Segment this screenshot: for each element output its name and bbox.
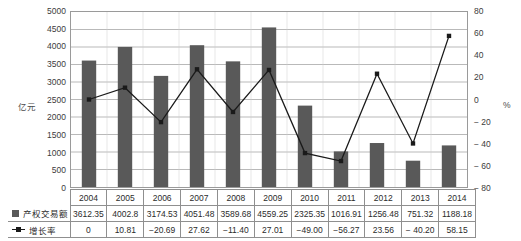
table-cell-value: 27.62 xyxy=(181,222,218,238)
axis-tick-label: 20 xyxy=(474,73,483,82)
axis-tick-label: 2000 xyxy=(47,113,66,122)
table-header-year: 2008 xyxy=(217,190,254,206)
axis-tick-label: 5000 xyxy=(47,7,66,16)
table-header-year: 2014 xyxy=(439,190,476,206)
table-header-year: 2006 xyxy=(144,190,181,206)
axis-tick-label: − 80 xyxy=(474,184,491,193)
table-row-header: 2004200520062007200820092010201120122013… xyxy=(8,190,476,206)
table-cell-value: 4051.48 xyxy=(181,206,218,222)
table-cell-value: 751.32 xyxy=(402,206,439,222)
legend-label: 增长率 xyxy=(29,224,56,236)
data-table: 2004200520062007200820092010201120122013… xyxy=(8,189,476,238)
axis-tick-label: 60 xyxy=(474,29,483,38)
table-cell-value: 3612.35 xyxy=(70,206,107,222)
axis-tick-label: 0 xyxy=(474,96,479,105)
plot-area xyxy=(70,11,468,188)
table-cell-value: 0 xyxy=(70,222,107,238)
table-header-year: 2004 xyxy=(70,190,107,206)
combo-chart: 亿元 % 50004500400035003000250020001500100… xyxy=(0,0,521,241)
table-row: 产权交易额3612.354002.83174.534051.483589.684… xyxy=(8,206,476,222)
table-header-year: 2011 xyxy=(328,190,365,206)
table-cell-value: −56.27 xyxy=(328,222,365,238)
data-table-body: 2004200520062007200820092010201120122013… xyxy=(8,190,476,238)
table-cell-value: −49.00 xyxy=(291,222,328,238)
table-header-year: 2013 xyxy=(402,190,439,206)
axis-tick-label: 3500 xyxy=(47,60,66,69)
table-cell-value: 1188.18 xyxy=(439,206,476,222)
legend-item[interactable]: 产权交易额 xyxy=(8,206,70,222)
axis-tick-label: − 40 xyxy=(474,140,491,149)
table-row: 增长率010.81−20.6927.62−11.4027.01−49.00−56… xyxy=(8,222,476,238)
legend-item[interactable]: 增长率 xyxy=(8,222,70,238)
table-corner-cell xyxy=(8,190,70,206)
table-header-year: 2009 xyxy=(254,190,291,206)
table-cell-value: 27.01 xyxy=(254,222,291,238)
table-cell-value: 58.15 xyxy=(439,222,476,238)
plot-svg xyxy=(71,12,467,187)
table-header-year: 2005 xyxy=(107,190,144,206)
axis-tick-label: 1000 xyxy=(47,149,66,158)
table-cell-value: 3174.53 xyxy=(144,206,181,222)
table-cell-value: 1016.91 xyxy=(328,206,365,222)
legend-line-marker-icon xyxy=(12,226,25,233)
axis-tick-label: 1500 xyxy=(47,131,66,140)
y-axis-right-ticks: 806040200− 20− 40− 60− 80 xyxy=(474,0,504,190)
axis-tick-label: 500 xyxy=(52,166,66,175)
axis-tick-label: − 60 xyxy=(474,162,491,171)
table-header-year: 2007 xyxy=(181,190,218,206)
table-cell-value: 23.56 xyxy=(365,222,402,238)
legend-label: 产权交易额 xyxy=(23,207,68,219)
axis-tick-label: 4000 xyxy=(47,42,66,51)
axis-tick-label: 80 xyxy=(474,7,483,16)
y-axis-left-ticks: 5000450040003500300025002000150010005000 xyxy=(34,0,66,190)
axis-tick-label: 4500 xyxy=(47,25,66,34)
table-cell-value: 4002.8 xyxy=(107,206,144,222)
axis-tick-label: 40 xyxy=(474,51,483,60)
table-cell-value: 10.81 xyxy=(107,222,144,238)
table-cell-value: − 40.20 xyxy=(402,222,439,238)
table-cell-value: 3589.68 xyxy=(217,206,254,222)
legend-bar-swatch-icon xyxy=(12,210,19,217)
table-cell-value: 4559.25 xyxy=(254,206,291,222)
table-cell-value: 2325.35 xyxy=(291,206,328,222)
table-header-year: 2010 xyxy=(291,190,328,206)
table-header-year: 2012 xyxy=(365,190,402,206)
table-cell-value: 1256.48 xyxy=(365,206,402,222)
axis-tick-label: 3000 xyxy=(47,78,66,87)
axis-tick-label: 2500 xyxy=(47,96,66,105)
table-cell-value: −11.40 xyxy=(217,222,254,238)
axis-tick-label: − 20 xyxy=(474,118,491,127)
table-cell-value: −20.69 xyxy=(144,222,181,238)
y-axis-right-title: % xyxy=(503,100,511,110)
